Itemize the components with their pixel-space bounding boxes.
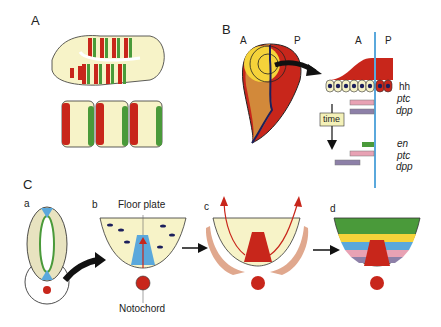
panel-b-label: B — [222, 22, 231, 37]
sub-a-label: a — [24, 198, 30, 209]
embryo-illustration — [52, 36, 164, 86]
wing-disc — [243, 44, 322, 143]
neural-tube-b — [100, 215, 208, 303]
time-label: time — [323, 114, 340, 124]
panel-a-label: A — [31, 13, 40, 28]
sub-b-label: b — [92, 199, 98, 210]
sub-d-label: d — [330, 203, 336, 214]
disc-posterior-label: P — [294, 35, 301, 46]
diagram-canvas — [0, 0, 441, 327]
gene-hh: hh — [399, 81, 410, 92]
sub-c-label: c — [204, 201, 209, 212]
gene-en: en — [397, 138, 408, 149]
segment-cells — [62, 101, 162, 147]
notochord-label: Notochord — [119, 303, 165, 314]
gene-dpp-late: dpp — [396, 161, 413, 172]
gene-ptc: ptc — [397, 93, 410, 104]
neural-tube-d — [334, 218, 420, 290]
neural-tube-a — [25, 207, 106, 304]
disc-anterior-label: A — [240, 35, 247, 46]
gene-ptc-late: ptc — [397, 150, 410, 161]
neural-tube-c — [206, 196, 340, 290]
gene-dpp: dpp — [396, 105, 413, 116]
floor-plate-label: Floor plate — [118, 199, 165, 210]
section-posterior-label: P — [385, 35, 392, 46]
panel-c-label: C — [23, 177, 32, 192]
cell-row-section — [320, 32, 393, 188]
section-anterior-label: A — [355, 35, 362, 46]
